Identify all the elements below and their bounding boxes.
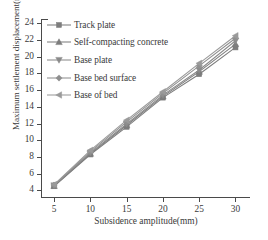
legend-marker-triangle-up-icon: [46, 36, 72, 48]
x-tick-label: 20: [158, 205, 167, 214]
y-tick-label: 18: [25, 69, 34, 78]
legend-item[interactable]: Base plate: [46, 51, 168, 69]
x-axis-title: Subsidence amplitude(mm): [41, 216, 251, 226]
x-tick: [235, 198, 236, 202]
legend-label: Self-compacting concrete: [72, 37, 168, 47]
legend-label: Base of bed: [72, 90, 117, 100]
legend-marker-diamond-icon: [46, 72, 72, 84]
y-tick-label: 6: [29, 169, 34, 178]
x-tick-label: 25: [195, 205, 204, 214]
y-tick-label: 10: [25, 136, 34, 145]
y-tick-label: 22: [25, 35, 34, 44]
y-tick-label: 16: [25, 85, 34, 94]
x-tick: [90, 198, 91, 202]
y-axis-title: Maximum settlement displacement(mm): [11, 0, 21, 147]
x-tick: [199, 198, 200, 202]
x-tick-label: 5: [52, 205, 57, 214]
legend: Track plateSelf-compacting concreteBase …: [46, 16, 168, 104]
y-tick-label: 4: [29, 186, 34, 195]
legend-label: Track plate: [72, 20, 115, 30]
y-tick-label: 14: [25, 102, 34, 111]
x-tick-label: 30: [231, 205, 240, 214]
legend-item[interactable]: Self-compacting concrete: [46, 34, 168, 52]
x-tick: [127, 198, 128, 202]
legend-label: Base bed surface: [72, 73, 136, 83]
legend-item[interactable]: Track plate: [46, 16, 168, 34]
x-tick: [54, 198, 55, 202]
legend-item[interactable]: Base of bed: [46, 86, 168, 104]
legend-marker-triangle-down-icon: [46, 54, 72, 66]
legend-item[interactable]: Base bed surface: [46, 69, 168, 87]
x-tick-label: 15: [122, 205, 131, 214]
legend-label: Base plate: [72, 55, 112, 65]
chart-figure: Maximum settlement displacement(mm) Subs…: [0, 0, 268, 240]
y-tick-label: 12: [25, 119, 34, 128]
y-tick-label: 20: [25, 52, 34, 61]
legend-marker-triangle-left-icon: [46, 89, 72, 101]
x-tick-label: 10: [86, 205, 95, 214]
x-tick: [163, 198, 164, 202]
y-tick-label: 24: [25, 18, 34, 27]
legend-marker-square-icon: [46, 19, 72, 31]
y-tick-label: 8: [29, 152, 34, 161]
